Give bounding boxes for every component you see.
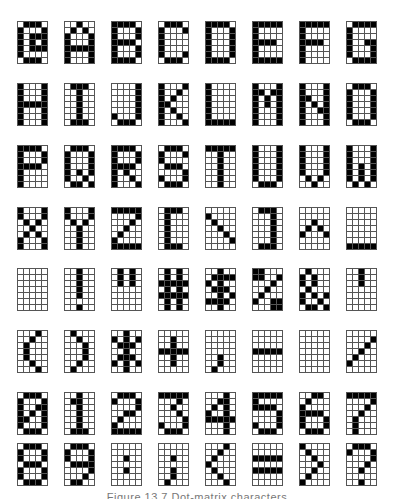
glyph-grid <box>346 268 377 311</box>
glyph-cell <box>259 208 264 213</box>
glyph-cell <box>112 429 117 434</box>
glyph-cell <box>277 232 282 237</box>
glyph-cell <box>130 411 135 416</box>
glyph-cell <box>218 46 223 51</box>
glyph-cell <box>183 96 188 101</box>
glyph-cell <box>165 468 170 473</box>
glyph-cell <box>159 58 164 63</box>
glyph-cell <box>183 114 188 119</box>
glyph-cell <box>206 46 211 51</box>
glyph-cell <box>124 411 129 416</box>
glyph-cell <box>165 275 170 280</box>
glyph-cell <box>18 444 23 449</box>
glyph-cell <box>171 46 176 51</box>
glyph-cell <box>365 232 370 237</box>
glyph-cell <box>36 58 41 63</box>
glyph-cell <box>89 182 94 187</box>
glyph-cell <box>318 343 323 348</box>
glyph-cell <box>212 331 217 336</box>
glyph-cell <box>77 34 82 39</box>
glyph-cell <box>124 299 129 304</box>
glyph-cell <box>359 299 364 304</box>
glyph-cell <box>18 393 23 398</box>
glyph-cell <box>253 468 258 473</box>
glyph-cell <box>359 108 364 113</box>
glyph-cell <box>218 361 223 366</box>
glyph-cell <box>36 214 41 219</box>
glyph-cell <box>112 305 117 310</box>
glyph-cell <box>130 84 135 89</box>
glyph-cell <box>136 474 141 479</box>
glyph-cell <box>230 120 235 125</box>
glyph-cell <box>183 423 188 428</box>
glyph-cell <box>183 34 188 39</box>
glyph-cell <box>71 102 76 107</box>
glyph-cell <box>271 208 276 213</box>
glyph-cell <box>206 84 211 89</box>
glyph-cell <box>218 287 223 292</box>
glyph-cell <box>359 405 364 410</box>
glyph-cell <box>124 84 129 89</box>
glyph-cell <box>42 474 47 479</box>
glyph-cell <box>124 244 129 249</box>
glyph-cell <box>112 480 117 485</box>
glyph-cell <box>277 474 282 479</box>
glyph-cell <box>118 456 123 461</box>
glyph-cell <box>177 337 182 342</box>
glyph-cell <box>300 152 305 157</box>
glyph-grid <box>252 443 283 486</box>
glyph-cell <box>65 28 70 33</box>
glyph-cell <box>359 417 364 422</box>
glyph-cell <box>77 176 82 181</box>
glyph-cell <box>24 22 29 27</box>
glyph-cell <box>112 114 117 119</box>
glyph-cell <box>165 331 170 336</box>
glyph-cell <box>83 305 88 310</box>
glyph-cell <box>112 52 117 57</box>
glyph-cell <box>218 456 223 461</box>
glyph-cell <box>230 220 235 225</box>
glyph-cell <box>83 399 88 404</box>
glyph-cell <box>271 34 276 39</box>
glyph-cell <box>65 393 70 398</box>
glyph-cell <box>300 22 305 27</box>
glyph-cell <box>265 238 270 243</box>
glyph-cell <box>253 305 258 310</box>
glyph-cell <box>130 152 135 157</box>
glyph-grid <box>64 145 95 188</box>
glyph-cell <box>177 423 182 428</box>
glyph-cell <box>124 176 129 181</box>
glyph-grid <box>64 330 95 373</box>
glyph-cell <box>118 114 123 119</box>
glyph-cell <box>71 361 76 366</box>
glyph-cell <box>206 34 211 39</box>
glyph-cell <box>183 337 188 342</box>
glyph-cell <box>300 287 305 292</box>
glyph-cell <box>353 444 358 449</box>
glyph-cell <box>259 343 264 348</box>
glyph-cell <box>65 349 70 354</box>
glyph-cell <box>365 337 370 342</box>
glyph-cell <box>136 96 141 101</box>
glyph-cell <box>159 417 164 422</box>
glyph-cell <box>24 423 29 428</box>
glyph-cell <box>265 176 270 181</box>
glyph-cell <box>224 46 229 51</box>
glyph-cell <box>71 456 76 461</box>
glyph-cell <box>89 293 94 298</box>
glyph-cell <box>230 393 235 398</box>
glyph-cell <box>83 34 88 39</box>
glyph-cell <box>118 146 123 151</box>
glyph-cell <box>271 462 276 467</box>
glyph-cell <box>183 399 188 404</box>
glyph-cell <box>171 337 176 342</box>
glyph-cell <box>365 468 370 473</box>
glyph-cell <box>42 456 47 461</box>
glyph-cell <box>136 102 141 107</box>
glyph-cell <box>71 405 76 410</box>
glyph-cell <box>165 474 170 479</box>
glyph-cell <box>118 287 123 292</box>
glyph-cell <box>271 146 276 151</box>
glyph-cell <box>165 480 170 485</box>
glyph-cell <box>365 429 370 434</box>
